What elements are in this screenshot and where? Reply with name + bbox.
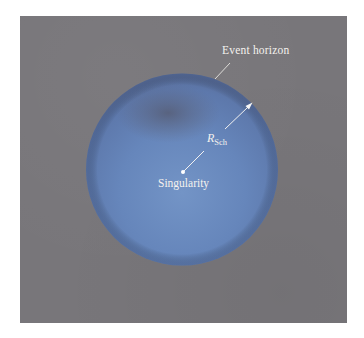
event-horizon-leader-line <box>215 63 230 79</box>
black-hole-diagram <box>0 0 364 338</box>
singularity-label: Singularity <box>158 178 209 190</box>
schwarzschild-radius-label: RSch <box>207 132 227 144</box>
singularity-dot <box>181 170 185 174</box>
event-horizon-sphere <box>86 74 278 266</box>
radius-subscript: Sch <box>214 137 227 147</box>
event-horizon-label: Event horizon <box>222 45 289 57</box>
